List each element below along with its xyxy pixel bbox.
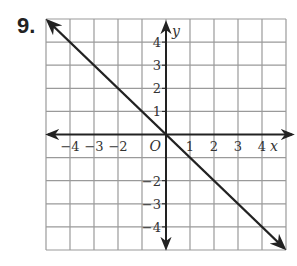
x-tick-label: 3 [234, 139, 242, 154]
y-tick-label: 2 [153, 81, 161, 96]
y-axis-label: y [171, 23, 181, 39]
y-tick-label: −3 [142, 197, 161, 212]
y-tick-label: −2 [142, 174, 161, 189]
x-tick-label: 2 [210, 139, 218, 154]
y-tick-label: −4 [142, 220, 161, 235]
y-tick-label: 4 [153, 35, 161, 50]
x-tick-label: 4 [258, 139, 266, 154]
origin-label: O [150, 138, 162, 154]
x-tick-label: −2 [108, 139, 127, 154]
y-tick-label: 3 [153, 58, 161, 73]
x-tick-label: −4 [60, 139, 79, 154]
coordinate-plane: −4−3−212344321−2−3−4Oxy [0, 0, 297, 266]
x-tick-label: 1 [186, 139, 194, 154]
x-axis-label: x [270, 138, 278, 154]
x-tick-label: −3 [84, 139, 103, 154]
y-tick-label: 1 [153, 104, 161, 119]
tick-labels: −4−3−212344321−2−3−4Oxy [60, 23, 278, 235]
